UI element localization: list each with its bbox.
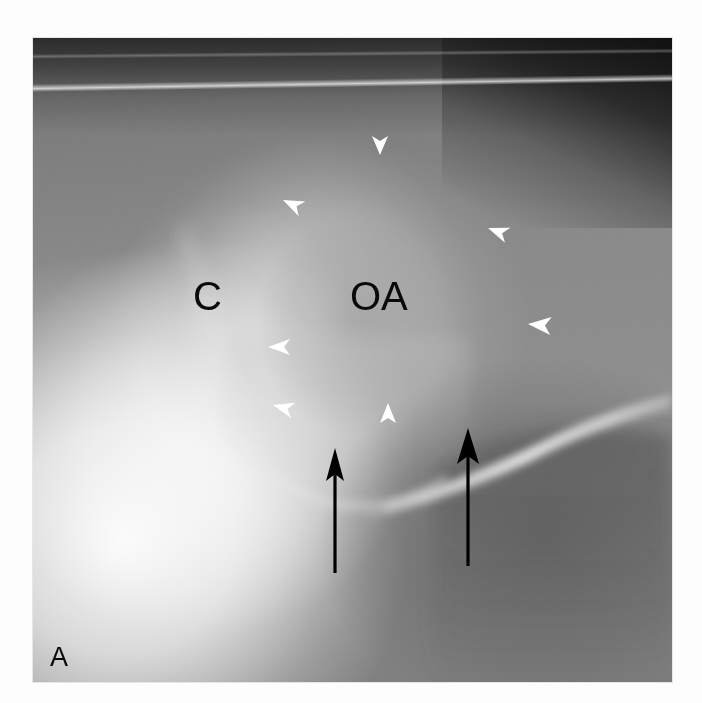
label-osteoarthritis: OA	[350, 274, 408, 318]
arrowhead-bottom	[380, 403, 396, 423]
label-condyle: C	[193, 274, 222, 318]
arrowhead-mid-right	[527, 315, 551, 335]
arrow-left	[326, 448, 344, 573]
arrowhead-mid-left	[268, 339, 290, 355]
arrowhead-top	[372, 136, 388, 155]
arrowhead-upper-left	[280, 193, 306, 216]
arrowhead-group	[268, 136, 552, 423]
annotation-overlay: C OA A	[33, 38, 672, 682]
arrow-group	[326, 428, 479, 573]
radiograph-image: C OA A	[33, 38, 672, 682]
label-panel-a: A	[50, 642, 68, 672]
figure-root: C OA A	[0, 0, 702, 703]
arrowhead-upper-right	[485, 220, 510, 242]
arrow-right	[457, 428, 479, 566]
arrowhead-lower-left	[271, 397, 295, 418]
